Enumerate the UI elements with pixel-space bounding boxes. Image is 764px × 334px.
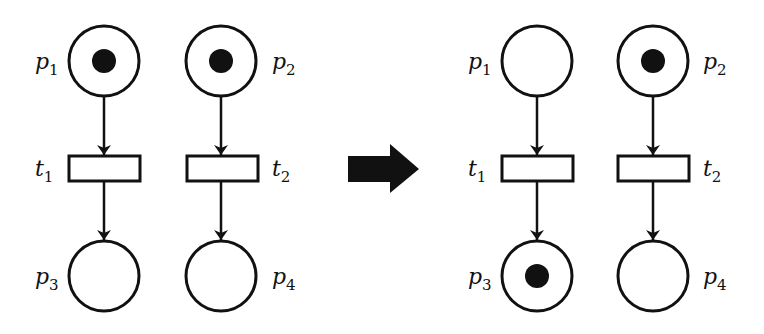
right-arrow-icon: [348, 144, 419, 193]
place-label-p4: p4: [703, 264, 727, 294]
place-p4-before: p4: [186, 241, 296, 311]
net-after: p1 p2 t1 t2 p3 p: [468, 26, 727, 311]
place-p3-before: p3: [35, 241, 139, 311]
transition-label-t2: t2: [272, 156, 290, 186]
transition-label-t2: t2: [703, 156, 721, 186]
token-icon: [209, 49, 233, 73]
token-icon: [92, 49, 116, 73]
place-label-p3: p3: [35, 264, 59, 294]
petri-net-diagram: p1 p2 t1 t2 p3 p4: [0, 0, 764, 334]
transition-label-t1: t1: [468, 156, 486, 186]
place-label-p2: p2: [272, 49, 296, 79]
place-label-p1: p1: [468, 49, 492, 79]
place-p2-before: p2: [186, 26, 296, 96]
place-label-p2: p2: [703, 49, 727, 79]
token-icon: [525, 264, 549, 288]
place-p2-after: p2: [618, 26, 727, 96]
place-p3-after: p3: [468, 241, 572, 311]
place-label-p3: p3: [468, 264, 492, 294]
transition-t1-before: t1: [35, 156, 140, 186]
place-label-p4: p4: [272, 264, 296, 294]
place-p4-after: p4: [618, 241, 727, 311]
place-label-p1: p1: [35, 49, 59, 79]
transition-label-t1: t1: [35, 156, 53, 186]
transition-t1-after: t1: [468, 156, 573, 186]
transition-t2-after: t2: [618, 156, 721, 186]
place-p1-after: p1: [468, 26, 572, 96]
token-icon: [641, 49, 665, 73]
place-p1-before: p1: [35, 26, 139, 96]
transition-t2-before: t2: [187, 156, 290, 186]
net-before: p1 p2 t1 t2 p3 p4: [35, 26, 296, 311]
